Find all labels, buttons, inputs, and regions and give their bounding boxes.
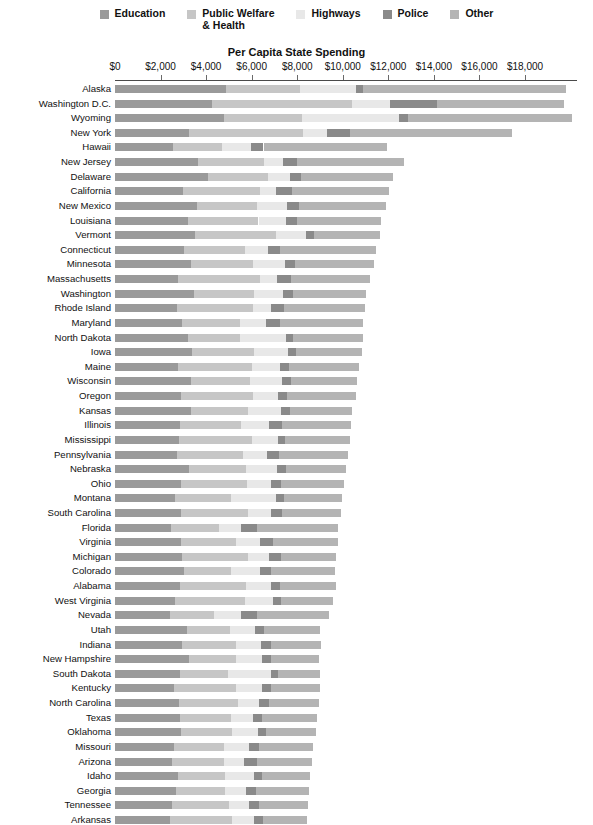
bar-segment-police[interactable] xyxy=(249,743,259,751)
chart-row[interactable]: Michigan xyxy=(0,553,593,561)
bar-segment-highways[interactable] xyxy=(231,714,253,722)
bar-segment-highways[interactable] xyxy=(250,377,282,385)
bar-segment-highways[interactable] xyxy=(228,670,271,678)
bar-segment-highways[interactable] xyxy=(252,436,278,444)
bar-segment-other[interactable] xyxy=(257,758,312,766)
bar-segment-education[interactable] xyxy=(115,436,179,444)
bar-segment-police[interactable] xyxy=(266,319,280,327)
bar-segment-education[interactable] xyxy=(115,319,182,327)
bar-segment-education[interactable] xyxy=(115,597,175,605)
bar-segment-other[interactable] xyxy=(280,582,336,590)
bar-segment-public-welfare[interactable] xyxy=(172,801,229,809)
bar-segment-public-welfare[interactable] xyxy=(184,246,245,254)
bar-segment-public-welfare[interactable] xyxy=(183,187,259,195)
stacked-bar[interactable] xyxy=(115,743,313,751)
bar-segment-other[interactable] xyxy=(271,655,319,663)
chart-row[interactable]: West Virginia xyxy=(0,597,593,605)
bar-segment-public-welfare[interactable] xyxy=(179,699,239,707)
bar-segment-police[interactable] xyxy=(260,538,273,546)
stacked-bar[interactable] xyxy=(115,480,344,488)
bar-segment-highways[interactable] xyxy=(276,231,306,239)
chart-row[interactable]: New Hampshire xyxy=(0,655,593,663)
bar-segment-highways[interactable] xyxy=(231,567,259,575)
chart-row[interactable]: Mississippi xyxy=(0,436,593,444)
bar-segment-other[interactable] xyxy=(293,334,363,342)
bar-segment-highways[interactable] xyxy=(236,538,260,546)
bar-segment-police[interactable] xyxy=(281,407,290,415)
chart-row[interactable]: Tennessee xyxy=(0,801,593,809)
bar-segment-public-welfare[interactable] xyxy=(182,319,240,327)
chart-row[interactable]: Delaware xyxy=(0,173,593,181)
bar-segment-police[interactable] xyxy=(271,480,281,488)
bar-segment-public-welfare[interactable] xyxy=(181,538,236,546)
bar-segment-police[interactable] xyxy=(283,290,293,298)
bar-segment-highways[interactable] xyxy=(219,524,242,532)
stacked-bar[interactable] xyxy=(115,173,393,181)
bar-segment-police[interactable] xyxy=(278,436,286,444)
chart-row[interactable]: Illinois xyxy=(0,421,593,429)
chart-row[interactable]: Ohio xyxy=(0,480,593,488)
bar-segment-police[interactable] xyxy=(276,494,284,502)
chart-row[interactable]: Massachusetts xyxy=(0,275,593,283)
bar-segment-other[interactable] xyxy=(262,714,317,722)
chart-row[interactable]: Georgia xyxy=(0,787,593,795)
bar-segment-highways[interactable] xyxy=(229,801,250,809)
bar-segment-other[interactable] xyxy=(297,158,403,166)
bar-segment-public-welfare[interactable] xyxy=(179,436,252,444)
bar-segment-education[interactable] xyxy=(115,670,180,678)
bar-segment-other[interactable] xyxy=(278,670,320,678)
bar-segment-education[interactable] xyxy=(115,129,189,137)
stacked-bar[interactable] xyxy=(115,582,336,590)
bar-segment-education[interactable] xyxy=(115,421,180,429)
bar-segment-education[interactable] xyxy=(115,524,171,532)
bar-segment-education[interactable] xyxy=(115,85,226,93)
bar-segment-other[interactable] xyxy=(314,231,380,239)
chart-row[interactable]: Maryland xyxy=(0,319,593,327)
stacked-bar[interactable] xyxy=(115,231,380,239)
stacked-bar[interactable] xyxy=(115,85,566,93)
chart-row[interactable]: New Jersey xyxy=(0,158,593,166)
stacked-bar[interactable] xyxy=(115,392,356,400)
chart-row[interactable]: Florida xyxy=(0,524,593,532)
bar-segment-other[interactable] xyxy=(286,465,346,473)
bar-segment-education[interactable] xyxy=(115,290,194,298)
bar-segment-education[interactable] xyxy=(115,714,180,722)
stacked-bar[interactable] xyxy=(115,407,352,415)
stacked-bar[interactable] xyxy=(115,260,374,268)
bar-segment-highways[interactable] xyxy=(236,641,262,649)
chart-row[interactable]: Minnesota xyxy=(0,260,593,268)
bar-segment-highways[interactable] xyxy=(236,684,262,692)
bar-segment-highways[interactable] xyxy=(248,553,269,561)
bar-segment-police[interactable] xyxy=(241,611,256,619)
bar-segment-public-welfare[interactable] xyxy=(197,202,256,210)
bar-segment-highways[interactable] xyxy=(264,158,283,166)
bar-segment-other[interactable] xyxy=(295,260,374,268)
bar-segment-education[interactable] xyxy=(115,363,178,371)
bar-segment-highways[interactable] xyxy=(225,772,253,780)
bar-segment-public-welfare[interactable] xyxy=(176,787,225,795)
bar-segment-education[interactable] xyxy=(115,787,176,795)
bar-segment-public-welfare[interactable] xyxy=(174,684,236,692)
chart-row[interactable]: New Mexico xyxy=(0,202,593,210)
bar-segment-education[interactable] xyxy=(115,260,191,268)
stacked-bar[interactable] xyxy=(115,787,309,795)
chart-row[interactable]: Indiana xyxy=(0,641,593,649)
stacked-bar[interactable] xyxy=(115,626,320,634)
bar-segment-other[interactable] xyxy=(297,217,381,225)
bar-segment-public-welfare[interactable] xyxy=(182,641,236,649)
bar-segment-other[interactable] xyxy=(299,202,386,210)
stacked-bar[interactable] xyxy=(115,436,350,444)
bar-segment-highways[interactable] xyxy=(303,129,327,137)
bar-segment-highways[interactable] xyxy=(253,392,278,400)
bar-segment-education[interactable] xyxy=(115,158,198,166)
chart-row[interactable]: Vermont xyxy=(0,231,593,239)
bar-segment-public-welfare[interactable] xyxy=(175,597,244,605)
bar-segment-public-welfare[interactable] xyxy=(178,275,260,283)
bar-segment-education[interactable] xyxy=(115,275,178,283)
stacked-bar[interactable] xyxy=(115,816,307,824)
bar-segment-highways[interactable] xyxy=(222,143,250,151)
chart-row[interactable]: South Dakota xyxy=(0,670,593,678)
bar-segment-public-welfare[interactable] xyxy=(180,714,231,722)
bar-segment-police[interactable] xyxy=(253,714,262,722)
bar-segment-highways[interactable] xyxy=(248,509,271,517)
